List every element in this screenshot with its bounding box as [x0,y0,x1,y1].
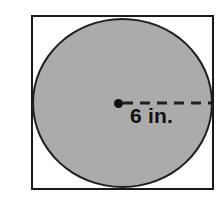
center-point-dot [114,99,123,108]
radius-measurement-label: 6 in. [130,105,173,126]
diagram-canvas: 6 in. [0,0,222,200]
